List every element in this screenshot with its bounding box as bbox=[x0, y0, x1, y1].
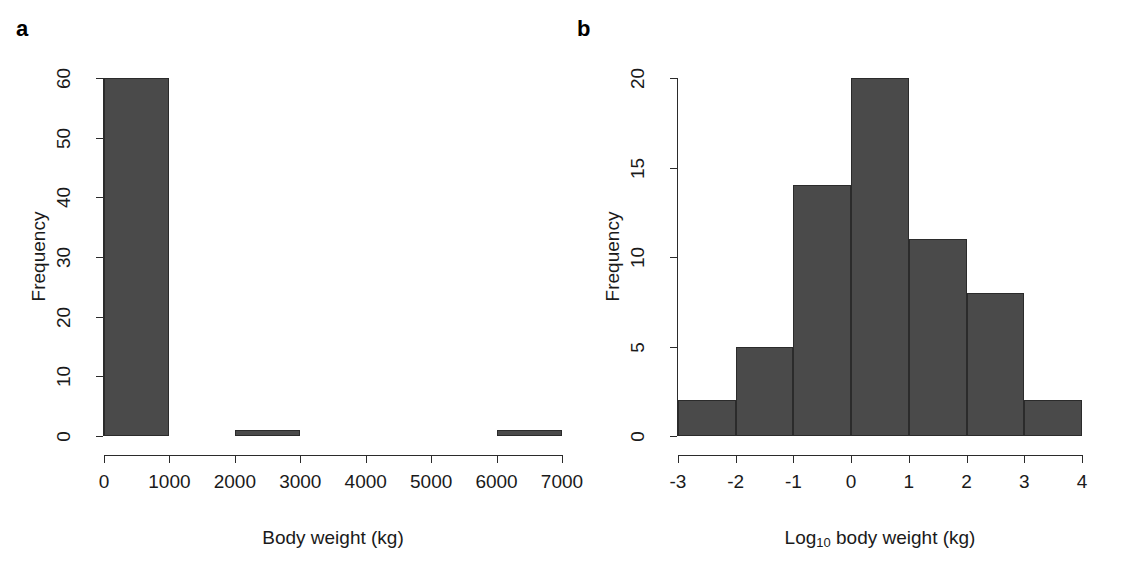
y-axis-tick bbox=[96, 257, 103, 258]
panel-a-y-axis-title: Frequency bbox=[29, 187, 48, 327]
x-axis-tick bbox=[1024, 455, 1025, 463]
x-axis-tick-label: -3 bbox=[670, 472, 687, 491]
y-axis-tick bbox=[670, 257, 677, 258]
panel-b-x-axis-title: Log10 body weight (kg) bbox=[785, 528, 976, 547]
histogram-bar bbox=[736, 347, 794, 437]
x-axis-tick bbox=[497, 455, 498, 463]
x-axis-tick bbox=[104, 455, 105, 463]
y-axis-tick bbox=[96, 138, 103, 139]
y-axis-tick bbox=[96, 376, 103, 377]
x-axis-tick bbox=[431, 455, 432, 463]
x-axis-tick bbox=[909, 455, 910, 463]
x-axis-tick-label: -1 bbox=[785, 472, 802, 491]
histogram-bar bbox=[235, 430, 300, 436]
x-axis-tick bbox=[967, 455, 968, 463]
x-axis-tick bbox=[562, 455, 563, 463]
histogram-bar bbox=[497, 430, 562, 436]
y-axis-tick-label: 10 bbox=[54, 354, 73, 400]
panel-a: a Frequency 0102030405060 01000200030004… bbox=[0, 0, 573, 567]
x-axis-tick-label: 3000 bbox=[279, 472, 321, 491]
panel-b-y-axis-title: Frequency bbox=[603, 187, 622, 327]
x-axis-tick bbox=[736, 455, 737, 463]
figure-two-panel-histograms: a Frequency 0102030405060 01000200030004… bbox=[0, 0, 1146, 567]
y-axis-tick bbox=[96, 317, 103, 318]
y-axis-tick-label: 20 bbox=[54, 294, 73, 340]
histogram-bar bbox=[793, 185, 851, 436]
y-axis-tick-label: 5 bbox=[628, 324, 647, 370]
x-axis-tick bbox=[678, 455, 679, 463]
panel-a-plot-area: 0102030405060 01000200030004000500060007… bbox=[104, 78, 562, 436]
panel-a-x-axis-line bbox=[104, 455, 562, 456]
x-axis-tick-label: 4000 bbox=[345, 472, 387, 491]
x-axis-tick-label: 6000 bbox=[475, 472, 517, 491]
x-axis-tick-label: 2 bbox=[961, 472, 972, 491]
y-axis-tick-label: 15 bbox=[628, 145, 647, 191]
panel-b-y-axis-line bbox=[677, 78, 678, 436]
x-axis-tick-label: 4 bbox=[1077, 472, 1088, 491]
y-axis-tick bbox=[670, 436, 677, 437]
panel-a-bars bbox=[104, 78, 562, 436]
panel-b-x-axis-line bbox=[678, 455, 1082, 456]
y-axis-tick bbox=[96, 436, 103, 437]
y-axis-tick-label: 50 bbox=[54, 115, 73, 161]
y-axis-tick bbox=[670, 347, 677, 348]
x-axis-tick bbox=[793, 455, 794, 463]
histogram-bar bbox=[909, 239, 967, 436]
y-axis-tick-label: 60 bbox=[54, 56, 73, 102]
x-axis-tick-label: 0 bbox=[99, 472, 110, 491]
y-axis-tick bbox=[670, 168, 677, 169]
x-axis-tick-label: 2000 bbox=[214, 472, 256, 491]
x-axis-tick bbox=[851, 455, 852, 463]
x-axis-tick-label: 0 bbox=[846, 472, 857, 491]
y-axis-tick-label: 40 bbox=[54, 175, 73, 221]
x-axis-tick-label: 1 bbox=[904, 472, 915, 491]
histogram-bar bbox=[678, 400, 736, 436]
panel-b-plot-area: 05101520 -3-2-101234 bbox=[678, 78, 1082, 436]
y-axis-tick-label: 0 bbox=[628, 414, 647, 460]
y-axis-tick-label: 0 bbox=[54, 414, 73, 460]
panel-a-letter: a bbox=[16, 18, 28, 40]
x-axis-tick bbox=[1082, 455, 1083, 463]
histogram-bar bbox=[967, 293, 1025, 436]
panel-b: b Frequency 05101520 -3-2-101234 Log10 b… bbox=[573, 0, 1146, 567]
y-axis-tick-label: 30 bbox=[54, 235, 73, 281]
panel-b-bars bbox=[678, 78, 1082, 436]
x-axis-tick bbox=[366, 455, 367, 463]
x-axis-tick-label: 1000 bbox=[148, 472, 190, 491]
histogram-bar bbox=[851, 78, 909, 436]
panel-b-letter: b bbox=[577, 18, 590, 40]
histogram-bar bbox=[1024, 400, 1082, 436]
y-axis-tick bbox=[96, 197, 103, 198]
histogram-bar bbox=[104, 78, 169, 436]
x-axis-tick bbox=[235, 455, 236, 463]
y-axis-tick-label: 20 bbox=[628, 56, 647, 102]
panel-b-x-axis-title-post: body weight (kg) bbox=[831, 527, 976, 548]
x-axis-tick-label: 5000 bbox=[410, 472, 452, 491]
y-axis-tick bbox=[670, 78, 677, 79]
x-axis-tick-label: 3 bbox=[1019, 472, 1030, 491]
y-axis-tick bbox=[96, 78, 103, 79]
panel-a-x-axis-title: Body weight (kg) bbox=[262, 528, 404, 547]
x-axis-tick bbox=[300, 455, 301, 463]
panel-a-y-axis-line bbox=[103, 78, 104, 436]
x-axis-tick bbox=[169, 455, 170, 463]
panel-b-x-axis-title-pre: Log bbox=[785, 527, 817, 548]
x-axis-tick-label: -2 bbox=[727, 472, 744, 491]
panel-b-x-axis-title-subscript: 10 bbox=[816, 535, 830, 550]
y-axis-tick-label: 10 bbox=[628, 235, 647, 281]
